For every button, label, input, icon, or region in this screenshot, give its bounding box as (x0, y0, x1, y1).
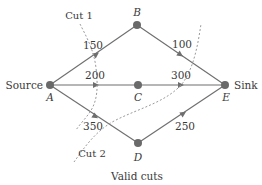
arrow-icon (176, 51, 184, 59)
node-label-b: B (132, 6, 141, 18)
capacity-d-e: 250 (175, 120, 195, 132)
diagram-caption: Valid cuts (110, 170, 163, 182)
node-d (134, 139, 142, 147)
node-label-e: E (221, 91, 230, 103)
node-a (46, 81, 54, 89)
cut-1-label: Cut 1 (65, 10, 93, 21)
node-e (221, 81, 229, 89)
flow-network-diagram: B A C E D Source Sink 150 200 350 100 30… (0, 0, 262, 185)
node-label-d: D (133, 151, 143, 163)
arrow-icon (93, 82, 99, 88)
node-b (133, 21, 141, 29)
capacity-a-c: 200 (85, 69, 105, 81)
node-label-a: A (45, 91, 54, 103)
source-label: Source (6, 79, 43, 91)
cut-2-label: Cut 2 (78, 148, 106, 159)
capacity-b-e: 100 (172, 38, 192, 50)
node-label-c: C (134, 91, 142, 103)
node-c (134, 81, 142, 89)
capacity-a-b: 150 (83, 39, 103, 51)
capacity-a-d: 350 (83, 120, 103, 132)
capacity-c-e: 300 (171, 69, 191, 81)
nodes (46, 21, 229, 147)
sink-label: Sink (234, 79, 258, 91)
